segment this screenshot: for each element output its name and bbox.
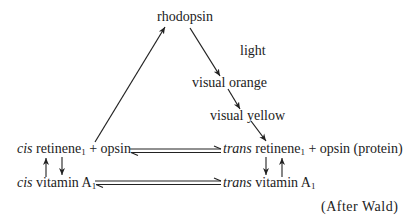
arrow-visual-yellow-to-trans-retinene — [251, 121, 266, 141]
arrow-visual-orange-to-visual-yellow — [228, 89, 240, 109]
node-cis-retinene-opsin: cis retinene1 + opsin — [17, 142, 131, 157]
cis-vitamin-subscript: 1 — [92, 181, 97, 191]
arrow-rhodopsin-to-visual-orange — [190, 28, 220, 76]
arrow-cis-retinene-to-rhodopsin — [95, 27, 165, 142]
cis-retinene-text: retinene — [36, 141, 81, 156]
plus-opsin-right: + opsin (protein) — [308, 141, 402, 156]
equilibrium-arrow-vitamin — [95, 178, 221, 188]
node-trans-retinene-opsin: trans retinene1 + opsin (protein) — [223, 142, 403, 157]
cis-prefix: cis — [17, 141, 33, 156]
node-rhodopsin: rhodopsin — [157, 10, 213, 24]
node-trans-vitamin-a1: trans vitamin A1 — [223, 176, 315, 191]
label-light: light — [240, 44, 266, 58]
trans-vitamin-subscript: 1 — [311, 181, 316, 191]
cis-vitamin-text: vitamin A — [36, 175, 92, 190]
node-visual-yellow: visual yellow — [210, 109, 285, 123]
plus-opsin-left: + opsin — [89, 141, 131, 156]
trans-prefix: trans — [223, 141, 252, 156]
trans-vitamin-prefix: trans — [223, 175, 252, 190]
node-visual-orange: visual orange — [192, 76, 267, 90]
trans-retinene-subscript: 1 — [300, 147, 305, 157]
equilibrium-arrow-retinene — [130, 146, 221, 156]
trans-retinene-text: retinene — [255, 141, 300, 156]
node-cis-vitamin-a1: cis vitamin A1 — [17, 176, 96, 191]
cis-vitamin-prefix: cis — [17, 175, 33, 190]
credit-after-wald: (After Wald) — [321, 200, 398, 214]
trans-vitamin-text: vitamin A — [255, 175, 311, 190]
cis-retinene-subscript: 1 — [81, 147, 86, 157]
